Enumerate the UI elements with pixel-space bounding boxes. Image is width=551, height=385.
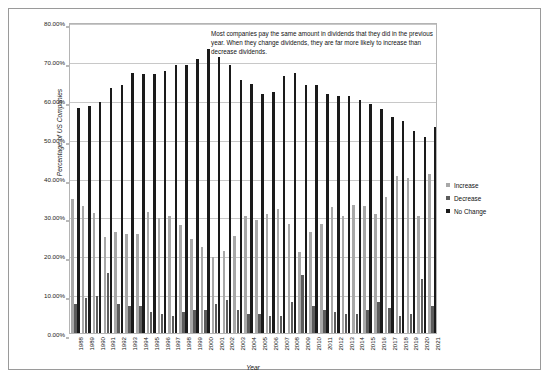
bars-layer [70,24,436,333]
year-bar-group [309,24,318,333]
year-bar-group [201,24,210,333]
bar-no-change [413,131,416,333]
bar-increase [277,209,280,333]
bar-no-change [369,104,372,333]
x-axis-tick-label: 2010 [315,337,322,351]
chart-annotation: Most companies pay the same amount in di… [211,29,433,56]
year-bar-group [190,24,199,333]
bar-no-change [434,127,437,333]
year-bar-group [114,24,123,333]
x-axis-tick-label: 2013 [348,337,355,351]
chart-frame: 80.00%70.00%60.00%50.00%40.00%30.00%20.0… [8,8,541,370]
year-bar-group [82,24,91,333]
year-bar-group [223,24,232,333]
year-bar-group [71,24,80,333]
year-bar-group [363,24,372,333]
year-bar-group [288,24,297,333]
x-axis-tick-label: 2020 [423,337,430,351]
year-bar-group [342,24,351,333]
legend-label: Decrease [454,195,481,202]
x-axis-tick-label: 1990 [99,337,106,351]
plot-wrapper [69,23,437,334]
x-axis-tick-label: 2009 [304,337,311,351]
legend-swatch-icon [446,196,450,200]
year-bar-group [428,24,437,333]
y-axis-tick-label: 20.00% [44,253,65,260]
x-axis-tick-label: 2000 [207,337,214,351]
bar-no-change [391,117,394,333]
x-axis-tick-label: 2004 [250,337,257,351]
x-axis-tick-label: 1994 [142,337,149,351]
bar-no-change [294,73,297,333]
bar-no-change [153,74,156,333]
x-axis-tick-label: 2008 [293,337,300,351]
bar-no-change [348,96,351,333]
year-bar-group [125,24,134,333]
year-bar-group [407,24,416,333]
bar-no-change [88,106,91,333]
x-axis-tick-label: 2016 [380,337,387,351]
bar-no-change [229,65,232,333]
x-axis-tick-label: 1989 [88,337,95,351]
year-bar-group [93,24,102,333]
year-bar-group [298,24,307,333]
year-bar-group [136,24,145,333]
legend-item[interactable]: No Change [446,207,536,215]
bar-no-change [185,65,188,333]
x-axis-tick-label: 2001 [218,337,225,351]
x-axis-tick-label: 1988 [77,337,84,351]
x-axis-tick-label: 2018 [402,337,409,351]
x-axis-tick-label: 1991 [109,337,116,351]
bar-no-change [196,59,199,333]
x-axis-tick-label: 1992 [120,337,127,351]
y-axis-tick-label: 0.00% [47,331,65,338]
year-bar-group [331,24,340,333]
bar-no-change [283,76,286,333]
x-axis-tick-label: 1996 [164,337,171,351]
x-axis-tick-label: 2003 [239,337,246,351]
bar-no-change [207,49,210,333]
bar-no-change [142,74,145,333]
bar-no-change [77,108,80,333]
legend-item[interactable]: Increase [446,181,536,189]
bar-no-change [131,73,134,333]
x-axis-tick-label: 1993 [131,337,138,351]
year-bar-group [277,24,286,333]
year-bar-group [266,24,275,333]
bar-no-change [337,96,340,333]
x-axis-tick-label: 2014 [358,337,365,351]
bar-no-change [424,137,427,333]
legend-swatch-icon [446,209,450,213]
legend-label: Increase [454,182,479,189]
y-axis-tick-label: 10.00% [44,292,65,299]
y-axis-tick-label: 70.00% [44,58,65,65]
legend-item[interactable]: Decrease [446,194,536,202]
plot-area [69,23,437,334]
bar-no-change [175,65,178,333]
bar-no-change [380,109,383,333]
bar-no-change [240,80,243,333]
bar-no-change [250,84,253,333]
bar-no-change [121,85,124,333]
x-axis-tick-label: 2011 [326,337,333,350]
year-bar-group [320,24,329,333]
year-bar-group [385,24,394,333]
bar-no-change [326,94,329,333]
bar-no-change [164,71,167,333]
x-axis-tick-label: 2007 [283,337,290,351]
x-axis-tick-label: 2002 [228,337,235,351]
x-axis-tick-label: 1999 [196,337,203,351]
x-axis-tick-label: 2021 [434,337,441,351]
year-bar-group [147,24,156,333]
x-axis-tick-label: 2019 [412,337,419,351]
year-bar-group [158,24,167,333]
year-bar-group [168,24,177,333]
bar-no-change [315,85,318,333]
year-bar-group [352,24,361,333]
x-axis-tick-label: 1995 [153,337,160,351]
legend-label: No Change [454,208,486,215]
y-axis-tick-label: 30.00% [44,214,65,221]
legend-swatch-icon [446,183,450,187]
year-bar-group [212,24,221,333]
bar-no-change [359,100,362,333]
